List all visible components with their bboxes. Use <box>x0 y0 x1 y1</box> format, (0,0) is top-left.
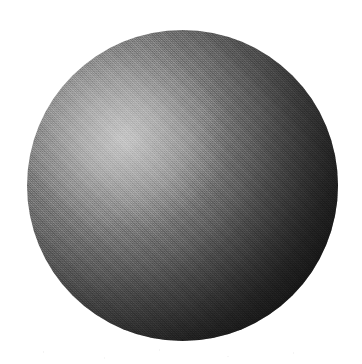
sphere-paper-grain <box>27 30 338 341</box>
sphere <box>27 30 338 341</box>
figure-canvas <box>0 0 362 364</box>
scan-speckle-artifacts <box>0 344 362 364</box>
